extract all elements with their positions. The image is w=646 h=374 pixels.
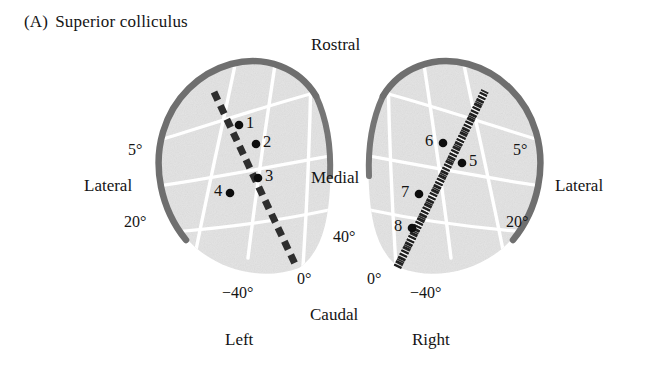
axis-label-right-5deg: 5° — [513, 142, 527, 158]
axis-label-40deg: 40° — [333, 229, 355, 245]
recording-site-5 — [458, 159, 467, 168]
axis-label-right-minus40deg: −40° — [410, 285, 441, 301]
left-colliculus — [158, 58, 331, 274]
recording-site-7 — [415, 190, 424, 199]
recording-site-2 — [252, 140, 261, 149]
label-lateral-right: Lateral — [555, 177, 603, 194]
label-caudal: Caudal — [310, 306, 358, 323]
site-label-2: 2 — [263, 134, 271, 151]
site-label-5: 5 — [469, 153, 477, 170]
figure-panel: (A)Superior colliculus — [0, 0, 646, 374]
label-rostral: Rostral — [311, 36, 360, 53]
axis-label-left-minus40deg: −40° — [222, 285, 253, 301]
recording-site-8 — [408, 224, 417, 233]
recording-site-3 — [254, 174, 263, 183]
right-colliculus — [368, 58, 541, 274]
axis-label-right-20deg: 20° — [506, 214, 528, 230]
label-medial: Medial — [311, 169, 359, 186]
recording-site-4 — [226, 189, 235, 198]
axis-label-right-0deg: 0° — [367, 271, 381, 287]
recording-site-1 — [235, 121, 244, 130]
label-left-hemisphere: Left — [225, 331, 253, 348]
label-right-hemisphere: Right — [412, 331, 450, 348]
site-label-7: 7 — [401, 184, 409, 201]
recording-site-6 — [439, 139, 448, 148]
site-label-3: 3 — [265, 168, 273, 185]
axis-label-left-20deg: 20° — [124, 214, 146, 230]
label-lateral-left: Lateral — [84, 177, 132, 194]
axis-label-left-0deg: 0° — [297, 271, 311, 287]
axis-label-left-5deg: 5° — [128, 142, 142, 158]
site-label-4: 4 — [214, 183, 222, 200]
site-label-8: 8 — [394, 218, 402, 235]
site-label-6: 6 — [425, 133, 433, 150]
site-label-1: 1 — [246, 115, 254, 132]
